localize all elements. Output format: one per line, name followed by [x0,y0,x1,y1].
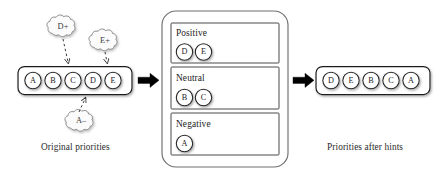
right-queue-node-label: E [343,77,359,85]
right-queue-node-label: D [323,77,339,85]
queue-node-label: E [105,77,121,85]
hint-cloud-label-e-plus: E+ [95,37,115,45]
arrow-left-to-classifier [138,73,159,87]
group-node-label: B [177,94,193,102]
caption-priorities-after-hints: Priorities after hints [327,143,403,152]
queue-node-label: C [65,77,81,85]
hint-arrow-d-plus [63,39,68,62]
group-label-neutral: Neutral [176,74,205,83]
diagram-canvas: A B C D E D+ E+ A– Positive Neutral Nega… [0,0,448,178]
group-node-label: D [177,48,193,56]
arrow-classifier-to-right [293,73,314,87]
queue-node-label: D [85,77,101,85]
right-queue-node-label: A [403,77,419,85]
hint-cloud-label-d-plus: D+ [53,23,73,31]
group-node-label: E [196,48,212,56]
queue-node-label: B [45,77,61,85]
group-node-label: A [177,140,193,148]
queue-node-label: A [25,77,41,85]
hint-cloud-label-a-minus: A– [71,117,91,125]
hint-arrow-e-plus [105,52,107,62]
group-label-positive: Positive [176,29,207,38]
caption-original-priorities: Original priorities [41,143,110,152]
group-label-negative: Negative [176,120,211,129]
right-queue-node-label: B [363,77,379,85]
group-node-label: C [196,94,212,102]
right-queue-node-label: C [383,77,399,85]
